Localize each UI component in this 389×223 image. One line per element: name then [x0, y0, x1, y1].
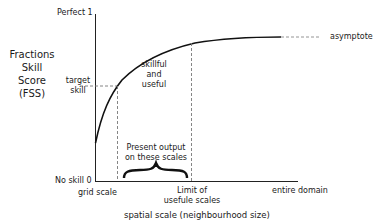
- region-line-3: useful: [134, 80, 174, 90]
- target-line-1: target: [60, 76, 96, 86]
- asymptote-label: asymptote: [330, 32, 373, 42]
- entire-domain-label: entire domain: [272, 186, 328, 196]
- present-line-2: on these scales: [120, 153, 192, 163]
- y-title-line-4: (FSS): [4, 87, 60, 100]
- x-axis-title: spatial scale (neighbourhood size): [124, 210, 270, 220]
- region-line-2: and: [134, 70, 174, 80]
- present-output-label: Present output on these scales: [120, 143, 192, 163]
- target-line-2: skill: [60, 86, 96, 96]
- curly-brace: [124, 163, 187, 178]
- grid-scale-label: grid scale: [78, 188, 117, 198]
- limit-line-1: Limit of: [160, 186, 224, 196]
- target-skill-label: target skill: [60, 76, 96, 96]
- limit-label: Limit of usefule scales: [160, 186, 224, 206]
- limit-line-2: usefule scales: [160, 196, 224, 206]
- y-title-line-3: Score: [4, 74, 60, 87]
- perfect-label: Perfect 1: [57, 8, 93, 18]
- no-skill-label: No skill 0: [55, 176, 92, 186]
- y-title-line-1: Fractions: [4, 48, 60, 61]
- y-title-line-2: Skill: [4, 61, 60, 74]
- present-line-1: Present output: [120, 143, 192, 153]
- region-line-1: skillful: [134, 60, 174, 70]
- skillful-useful-label: skillful and useful: [134, 60, 174, 90]
- fss-curve: [96, 37, 282, 143]
- y-axis-title: Fractions Skill Score (FSS): [4, 48, 60, 100]
